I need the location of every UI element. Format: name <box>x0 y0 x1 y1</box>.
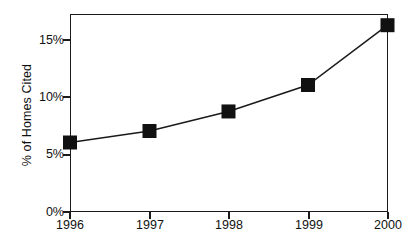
data-point-1999 <box>301 78 315 92</box>
line-chart: % of Homes Cited 15% 10% 5% 0% 1996 1997… <box>0 0 417 249</box>
x-tick-label-1997: 1997 <box>120 219 180 232</box>
data-point-1997 <box>143 124 157 138</box>
x-tick-label-1996: 1996 <box>40 219 100 232</box>
x-tick-label-1999: 1999 <box>279 219 339 232</box>
data-point-1998 <box>222 104 236 118</box>
data-series-layer <box>0 0 417 249</box>
data-point-1996 <box>63 136 77 150</box>
data-markers <box>63 18 395 149</box>
data-point-2000 <box>381 18 395 32</box>
data-line <box>70 25 388 142</box>
x-axis-tick-labels: 1996 1997 1998 1999 2000 <box>0 219 417 239</box>
x-tick-label-1998: 1998 <box>199 219 259 232</box>
x-tick-label-2000: 2000 <box>358 219 417 232</box>
